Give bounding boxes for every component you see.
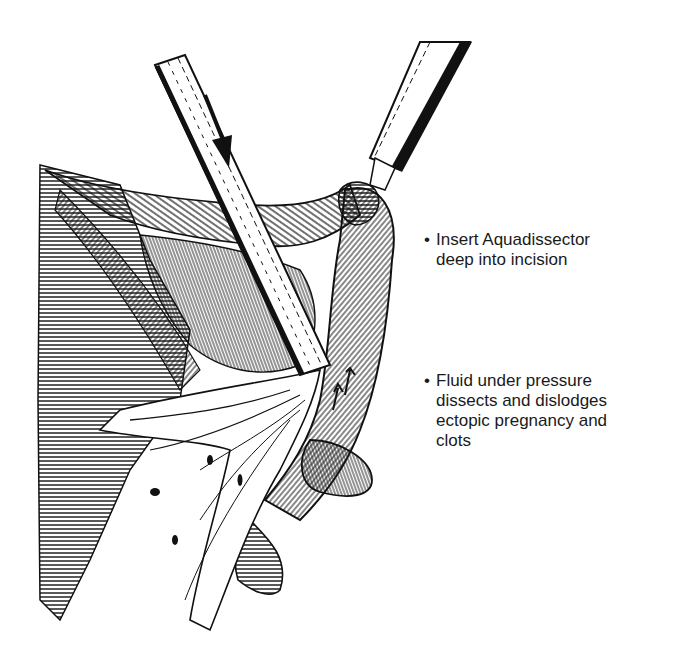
bullet-icon: • — [424, 371, 436, 451]
surgical-illustration — [0, 0, 674, 668]
annotation-text: Fluid under pressure dissects and dislod… — [436, 371, 607, 451]
annotation-insert-aquadissector: • Insert Aquadissector deep into incisio… — [424, 230, 664, 270]
annotation-text: Insert Aquadissector deep into incision — [436, 230, 590, 270]
bullet-icon: • — [424, 230, 436, 270]
grasping-instrument — [339, 42, 472, 225]
annotation-fluid-pressure: • Fluid under pressure dissects and disl… — [424, 371, 664, 451]
